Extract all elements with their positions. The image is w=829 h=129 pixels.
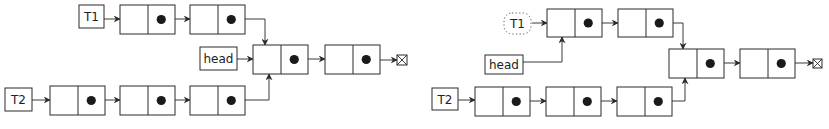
linked-list-merge-diagrams: T1headT2 T1headT2 <box>0 0 829 129</box>
list-node-shared-n2 <box>325 45 380 74</box>
list-node-shared-n1 <box>253 45 308 74</box>
list-node-t2-n3 <box>617 87 672 116</box>
next-pointer-dot-icon <box>290 55 299 64</box>
t1-label-text: T1 <box>509 17 525 31</box>
list-node-t1-n2 <box>618 9 673 37</box>
list-node-t2-n1 <box>475 87 530 116</box>
list-node-t2-n1 <box>50 86 105 115</box>
t1-pointer-label: T1 <box>504 13 531 34</box>
next-pointer-dot-icon <box>157 15 166 24</box>
next-pointer-dot-icon <box>362 55 371 64</box>
head-pointer-label: head <box>485 55 523 74</box>
head-pointer-label: head <box>200 47 237 70</box>
next-pointer-dot-icon <box>655 18 664 27</box>
list-node-t1-n2 <box>190 5 245 34</box>
next-pointer-dot-icon <box>654 97 663 106</box>
next-pointer-dot-icon <box>87 96 96 105</box>
list-node-t1-n1 <box>547 9 602 37</box>
t1-pointer-label: T1 <box>79 5 104 28</box>
list-node-t2-n2 <box>546 87 601 116</box>
null-terminator-icon <box>397 55 407 65</box>
t2-label-text: T2 <box>10 93 26 107</box>
next-pointer-dot-icon <box>583 97 592 106</box>
t2-label-text: T2 <box>437 93 453 107</box>
head-label-text: head <box>204 52 234 66</box>
next-pointer-dot-icon <box>157 96 166 105</box>
next-pointer-dot-icon <box>227 15 236 24</box>
list-node-t2-n2 <box>120 86 175 115</box>
next-pointer-dot-icon <box>706 59 715 68</box>
list-node-shared-n2 <box>740 49 795 78</box>
diagram-right-after: T1headT2 <box>432 9 822 116</box>
t2-pointer-label: T2 <box>432 88 458 110</box>
next-pointer-dot-icon <box>584 18 593 27</box>
null-terminator-icon <box>813 59 822 68</box>
head-label-text: head <box>489 58 519 72</box>
t1-label-text: T1 <box>83 10 99 24</box>
diagram-left-before: T1headT2 <box>5 5 407 115</box>
next-pointer-dot-icon <box>777 59 786 68</box>
t2-pointer-label: T2 <box>5 88 32 111</box>
list-node-t2-n3 <box>190 86 245 115</box>
list-node-shared-n1 <box>669 49 724 78</box>
next-pointer-dot-icon <box>512 97 521 106</box>
list-node-t1-n1 <box>120 5 175 34</box>
next-pointer-dot-icon <box>227 96 236 105</box>
pointer-arrow-head-to-t1_n1 <box>523 37 562 62</box>
